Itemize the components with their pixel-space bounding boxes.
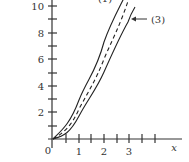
- x-tick-label-2: 2: [101, 146, 107, 157]
- origin-label: 0: [45, 145, 51, 156]
- curve-2: [53, 0, 129, 139]
- y-tick-label-8: 8: [38, 28, 44, 39]
- arrowhead-icon: [131, 17, 136, 22]
- chart: 10 8 6 4 2 0 1 2 3 x (1) (3): [0, 0, 189, 162]
- y-tick-label-2: 2: [38, 107, 44, 118]
- x-axis-label: x: [171, 142, 177, 153]
- curve-3-label: (3): [151, 14, 165, 25]
- y-tick-label-4: 4: [38, 81, 44, 92]
- curve-3: [53, 7, 135, 139]
- curve-1: [53, 0, 124, 139]
- y-tick-label-10: 10: [31, 1, 44, 12]
- y-tick-label-6: 6: [38, 54, 44, 65]
- x-tick-label-1: 1: [76, 146, 82, 157]
- x-tick-label-3: 3: [126, 146, 132, 157]
- curve-1-label: (1): [98, 0, 112, 4]
